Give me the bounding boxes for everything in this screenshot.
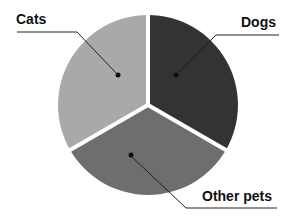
label-other-pets: Other pets xyxy=(202,188,272,204)
label-cats: Cats xyxy=(16,11,47,27)
pie-chart: Cats Dogs Other pets xyxy=(0,0,293,219)
label-dogs: Dogs xyxy=(241,14,276,30)
